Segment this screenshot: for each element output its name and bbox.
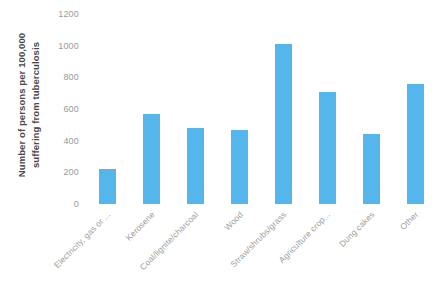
plot-area: 120010008006004002000: [85, 14, 437, 204]
y-axis-tick-label: 600: [63, 104, 79, 114]
bar[interactable]: [187, 128, 204, 204]
bar[interactable]: [407, 84, 424, 204]
y-axis-tick-label: 400: [63, 136, 79, 146]
x-axis-labels: Electricity, gas or ...KeroseneCoal/lign…: [85, 205, 437, 285]
bar[interactable]: [319, 92, 336, 204]
bar-slot: [261, 14, 305, 204]
bar-slot: [305, 14, 349, 204]
bar[interactable]: [99, 169, 116, 204]
y-axis-tick-label: 800: [63, 72, 79, 82]
y-axis-title: Number of persons per 100,000 suffering …: [0, 0, 56, 210]
bar[interactable]: [363, 134, 380, 204]
bar-series: [85, 14, 437, 204]
bar-slot: [217, 14, 261, 204]
bar[interactable]: [143, 114, 160, 204]
x-axis-tick-label: Electricity, gas or ...: [52, 208, 114, 270]
bar-slot: [85, 14, 129, 204]
y-axis-tick-label: 0: [74, 199, 79, 209]
bar-slot: [129, 14, 173, 204]
y-axis-tick-label: 1200: [58, 9, 79, 19]
y-axis-tick-label: 200: [63, 167, 79, 177]
x-axis-tick-label: Kerosene: [123, 208, 158, 243]
bar-slot: [173, 14, 217, 204]
bar-slot: [393, 14, 437, 204]
x-axis-label-slot: Dung cakes: [349, 205, 393, 285]
y-axis-title-line1: Number of persons per 100,000: [16, 33, 27, 177]
bar[interactable]: [275, 44, 292, 204]
bar-chart: Number of persons per 100,000 suffering …: [0, 0, 445, 288]
y-axis-title-line2: suffering from tuberculosis: [28, 33, 42, 177]
x-axis-label-slot: Other: [393, 205, 437, 285]
bar-slot: [349, 14, 393, 204]
bar[interactable]: [231, 130, 248, 204]
x-axis-tick-label: Wood: [222, 208, 246, 232]
x-axis-tick-label: Other: [398, 208, 422, 232]
x-axis-label-slot: Electricity, gas or ...: [85, 205, 129, 285]
y-axis-tick-label: 1000: [58, 41, 79, 51]
x-axis-label-slot: Coal/lignite/charcoal: [173, 205, 217, 285]
